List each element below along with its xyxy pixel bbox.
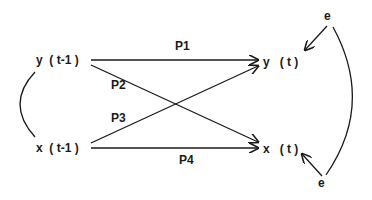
correlation-curve-left	[20, 72, 35, 137]
node-error-bottom: e	[318, 177, 325, 189]
node-error-top: e	[324, 10, 331, 22]
node-y-prev: y ( t-1 )	[36, 54, 79, 66]
path-label-p3: P3	[111, 112, 126, 124]
error-arrow-bottom	[302, 154, 322, 176]
error-arrow-top	[305, 26, 327, 50]
path-label-p4: P4	[179, 154, 194, 166]
path-diagram	[0, 0, 372, 200]
node-x-prev: x ( t-1 )	[36, 142, 79, 154]
node-y-curr: y ( t )	[263, 56, 298, 68]
arrow-p2	[91, 65, 258, 142]
correlation-curve-right	[326, 27, 352, 175]
path-label-p2: P2	[111, 79, 126, 91]
path-label-p1: P1	[175, 40, 190, 52]
node-x-curr: x ( t )	[263, 143, 298, 155]
